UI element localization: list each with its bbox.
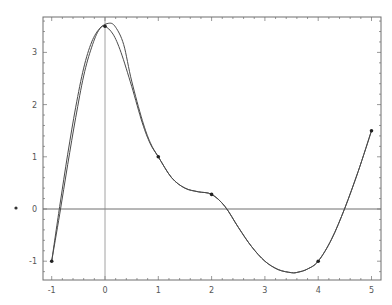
data-point bbox=[210, 193, 214, 197]
x-tick-label: 0 bbox=[102, 286, 107, 295]
approximating-curve bbox=[52, 23, 372, 273]
y-tick-label: 1 bbox=[32, 153, 37, 162]
y-tick-labels: -10123 bbox=[29, 48, 37, 266]
y-tick-label: 3 bbox=[32, 48, 37, 57]
x-tick-label: 2 bbox=[209, 286, 214, 295]
x-tick-label: 5 bbox=[369, 286, 374, 295]
data-point bbox=[50, 259, 54, 263]
curves bbox=[52, 23, 372, 273]
data-point bbox=[157, 155, 161, 159]
stray-mark bbox=[14, 206, 17, 209]
y-tick-label: 2 bbox=[32, 101, 37, 110]
data-point bbox=[370, 129, 374, 133]
x-tick-label: 4 bbox=[316, 286, 321, 295]
data-point bbox=[103, 25, 107, 29]
y-tick-label: -1 bbox=[29, 257, 37, 266]
chart: -1012345 -10123 bbox=[0, 0, 392, 305]
data-points bbox=[50, 25, 373, 264]
x-tick-label: 3 bbox=[262, 286, 267, 295]
y-tick-label: 0 bbox=[32, 205, 37, 214]
data-point bbox=[316, 259, 320, 263]
frame-ticks bbox=[43, 17, 381, 280]
plot-frame bbox=[43, 17, 381, 280]
interpolating-curve bbox=[52, 26, 372, 273]
x-tick-labels: -1012345 bbox=[48, 286, 374, 295]
x-tick-label: -1 bbox=[48, 286, 56, 295]
x-tick-label: 1 bbox=[156, 286, 161, 295]
